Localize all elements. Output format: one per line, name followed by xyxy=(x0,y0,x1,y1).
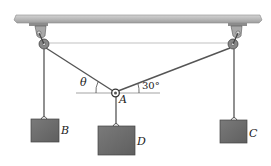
rope-right-to-A xyxy=(118,48,230,91)
block-B-label: B xyxy=(60,124,69,137)
block-B xyxy=(31,117,59,143)
left-pulley xyxy=(29,23,49,49)
block-D xyxy=(98,124,135,156)
block-D-label: D xyxy=(136,135,146,148)
ceiling-beam xyxy=(14,15,262,23)
theta-arc xyxy=(96,82,98,93)
block-C xyxy=(220,118,247,144)
angle-30-arc xyxy=(138,84,139,93)
theta-label: θ xyxy=(80,76,87,89)
pulley-system-diagram: θ 30° A B D C xyxy=(0,0,271,166)
ring-A-label: A xyxy=(118,93,127,106)
angle-30-label: 30° xyxy=(142,80,160,91)
right-pulley xyxy=(228,23,247,49)
block-C-label: C xyxy=(249,127,258,140)
